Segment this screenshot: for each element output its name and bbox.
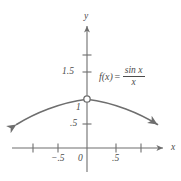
x-tick-label-neg-0_5: −.5 bbox=[51, 154, 65, 164]
x-tick-label-0_5: .5 bbox=[112, 154, 119, 164]
formula-lhs: f(x) bbox=[99, 72, 113, 82]
formula-numerator: sin x bbox=[124, 66, 144, 76]
formula-denominator: x bbox=[130, 77, 136, 87]
y-tick-label-1_5: 1.5 bbox=[62, 67, 74, 77]
graph-canvas bbox=[0, 0, 181, 181]
function-graph-figure: 1.5 1 .5 −.5 0 .5 y x f(x) = sin x x bbox=[0, 0, 181, 181]
function-curve-right bbox=[87, 99, 158, 124]
formula-equals: = bbox=[114, 72, 120, 82]
x-tick-label-0: 0 bbox=[78, 154, 83, 164]
formula-fraction: sin x x bbox=[123, 66, 145, 88]
x-axis-label: x bbox=[171, 143, 175, 153]
y-axis-label: y bbox=[84, 12, 88, 22]
y-tick-label-1: 1 bbox=[76, 103, 81, 113]
open-circle-hole bbox=[84, 96, 90, 102]
y-tick-label-0_5: .5 bbox=[70, 119, 77, 129]
function-formula-annotation: f(x) = sin x x bbox=[99, 66, 145, 88]
